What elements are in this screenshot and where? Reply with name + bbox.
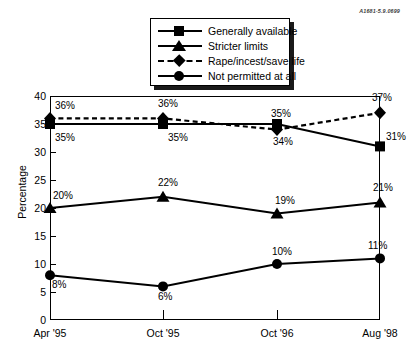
point-label: 8% (52, 280, 66, 290)
point-label: 11% (368, 241, 387, 251)
point-label: 22% (158, 178, 178, 188)
point-label: 34% (273, 137, 293, 147)
series-line-square (50, 124, 380, 146)
series-3 (45, 253, 385, 291)
series-line-circle (50, 258, 380, 286)
circle-marker-icon (158, 281, 168, 291)
point-label: 21% (373, 183, 393, 193)
point-label: 35% (271, 109, 291, 119)
series-2 (44, 106, 386, 136)
point-label: 35% (168, 133, 188, 143)
point-label: 31% (386, 132, 406, 142)
series-1 (44, 191, 387, 219)
circle-marker-icon (375, 253, 385, 263)
point-label: 36% (158, 99, 178, 109)
point-label: 19% (275, 196, 295, 206)
point-label: 37% (372, 93, 392, 103)
chart-figure: A1681-5.9.0699 Generally available Stric… (0, 0, 409, 358)
point-label: 20% (53, 191, 73, 201)
square-marker-icon (375, 141, 385, 151)
diamond-marker-icon (374, 106, 386, 119)
point-label: 10% (272, 247, 292, 257)
point-label: 6% (158, 292, 172, 302)
series-layer (0, 0, 409, 358)
point-label: 36% (55, 101, 75, 111)
series-line-diamond (50, 113, 380, 130)
series-line-triangle (50, 197, 380, 214)
circle-marker-icon (272, 259, 282, 269)
series-0 (45, 119, 385, 151)
point-label: 35% (55, 133, 75, 143)
